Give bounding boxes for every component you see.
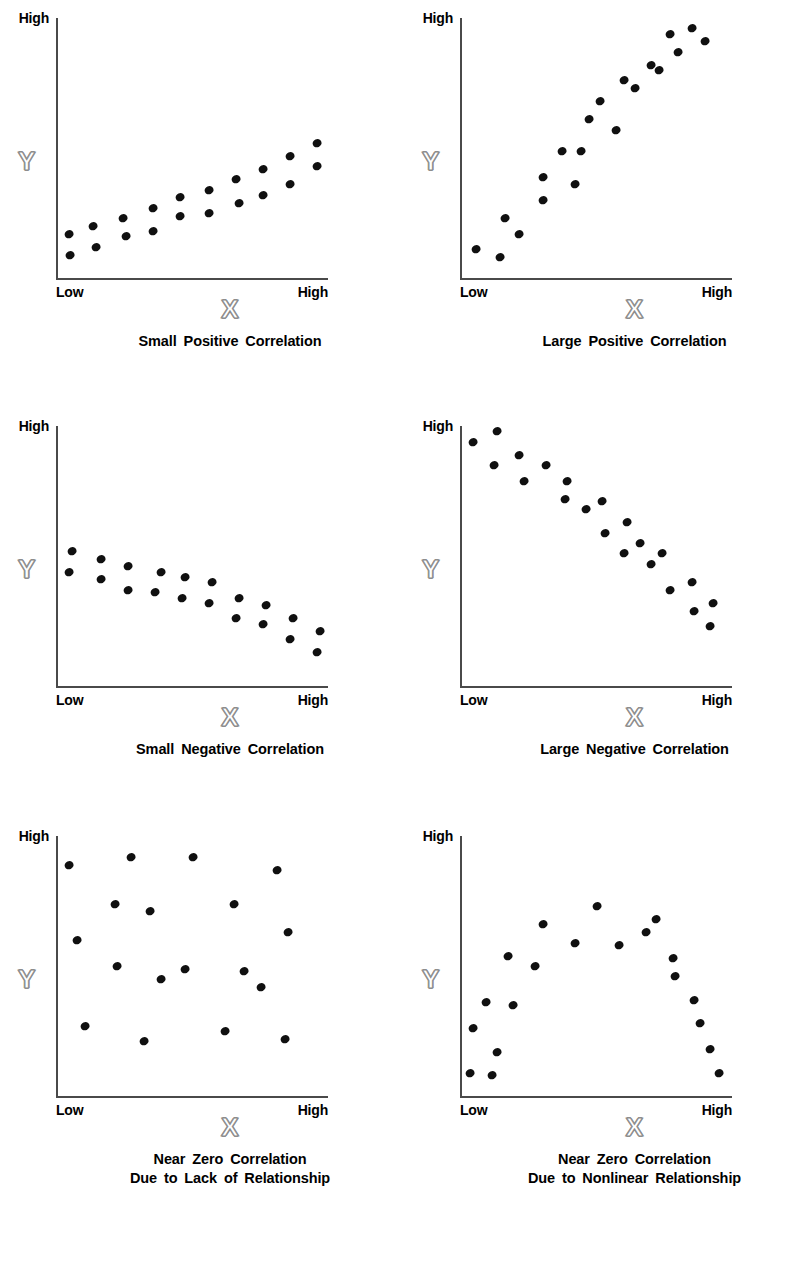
panel-caption-line: Small Positive Correlation — [138, 332, 321, 351]
data-point — [314, 626, 325, 637]
data-point — [96, 553, 107, 564]
data-point — [705, 621, 716, 632]
data-point — [629, 83, 640, 94]
scatter-panel-small-positive-correlation: HighLowHighYXSmall Positive Correlation — [0, 0, 404, 408]
x-axis-title-wrap: X — [404, 296, 809, 322]
data-point — [610, 125, 621, 136]
data-point — [204, 208, 215, 219]
data-point — [689, 995, 700, 1006]
data-point — [177, 592, 188, 603]
data-point — [258, 618, 269, 629]
panel-caption-line: Near Zero Correlation — [528, 1150, 741, 1169]
data-point — [570, 179, 581, 190]
data-point — [713, 1067, 724, 1078]
panel-caption-wrap: Small Negative Correlation — [0, 740, 404, 759]
data-point — [228, 898, 239, 909]
panel-caption-line: Small Negative Correlation — [136, 740, 324, 759]
data-point — [233, 197, 244, 208]
panel-caption-wrap: Large Negative Correlation — [404, 740, 809, 759]
data-point — [640, 927, 651, 938]
data-point — [150, 587, 161, 598]
data-point — [144, 906, 155, 917]
data-point — [689, 605, 700, 616]
x-axis-title-wrap: X — [404, 704, 809, 730]
data-point — [694, 1018, 705, 1029]
x-axis-title: X — [626, 1114, 643, 1140]
x-axis-line — [460, 686, 732, 688]
data-point — [513, 449, 524, 460]
data-point — [686, 23, 697, 34]
y-axis-high-label: High — [423, 828, 453, 844]
panel-caption: Small Negative Correlation — [136, 740, 324, 759]
data-point — [707, 598, 718, 609]
data-point — [599, 527, 610, 538]
correlation-figure-grid: HighLowHighYXSmall Positive CorrelationH… — [0, 0, 809, 1283]
data-point — [597, 496, 608, 507]
data-point — [231, 613, 242, 624]
data-point — [139, 1036, 150, 1047]
data-point — [71, 935, 82, 946]
x-axis-title: X — [626, 296, 643, 322]
data-point — [63, 229, 74, 240]
data-point — [513, 229, 524, 240]
data-point — [594, 96, 605, 107]
panel-caption-wrap: Near Zero CorrelationDue to Nonlinear Re… — [404, 1150, 809, 1188]
plot-area: HighLowHigh — [56, 18, 328, 280]
data-point — [635, 538, 646, 549]
panel-caption: Near Zero CorrelationDue to Lack of Rela… — [130, 1150, 330, 1188]
data-point — [285, 634, 296, 645]
data-point — [470, 244, 481, 255]
data-point — [518, 475, 529, 486]
data-point — [664, 585, 675, 596]
data-point — [90, 242, 101, 253]
data-point — [187, 852, 198, 863]
panel-caption-line: Large Positive Correlation — [543, 332, 727, 351]
data-point — [494, 252, 505, 263]
data-point — [271, 865, 282, 876]
data-point — [562, 475, 573, 486]
data-point — [537, 195, 548, 206]
panel-caption: Small Positive Correlation — [138, 332, 321, 351]
data-point — [123, 585, 134, 596]
data-point — [231, 174, 242, 185]
data-point — [653, 65, 664, 76]
data-point — [220, 1026, 231, 1037]
plot-area: HighLowHigh — [460, 18, 732, 280]
data-point — [540, 460, 551, 471]
data-point — [486, 1070, 497, 1081]
scatter-panel-near-zero-lack-of-relationship: HighLowHighYXNear Zero CorrelationDue to… — [0, 808, 404, 1283]
data-point — [705, 1044, 716, 1055]
scatter-points — [462, 836, 732, 1096]
plot-area: HighLowHigh — [460, 426, 732, 688]
panel-caption-wrap: Near Zero CorrelationDue to Lack of Rela… — [0, 1150, 404, 1188]
scatter-points — [462, 426, 732, 686]
data-point — [87, 221, 98, 232]
y-axis-title: Y — [18, 966, 35, 992]
data-point — [656, 548, 667, 559]
data-point — [686, 577, 697, 588]
data-point — [699, 36, 710, 47]
data-point — [312, 647, 323, 658]
data-point — [491, 426, 502, 437]
scatter-points — [58, 836, 328, 1096]
scatter-panel-small-negative-correlation: HighLowHighYXSmall Negative Correlation — [0, 408, 404, 808]
data-point — [613, 940, 624, 951]
panel-caption-line: Due to Nonlinear Relationship — [528, 1169, 741, 1188]
x-axis-line — [56, 278, 328, 280]
panel-caption-line: Large Negative Correlation — [540, 740, 729, 759]
data-point — [529, 961, 540, 972]
panel-caption: Large Positive Correlation — [543, 332, 727, 351]
data-point — [282, 927, 293, 938]
y-axis-title: Y — [422, 556, 439, 582]
y-axis-high-label: High — [19, 10, 49, 26]
data-point — [285, 179, 296, 190]
data-point — [258, 164, 269, 175]
data-point — [204, 598, 215, 609]
y-axis-title: Y — [422, 148, 439, 174]
data-point — [467, 1023, 478, 1034]
data-point — [63, 859, 74, 870]
data-point — [312, 138, 323, 149]
scatter-points — [462, 18, 732, 278]
scatter-panel-near-zero-nonlinear-relationship: HighLowHighYXNear Zero CorrelationDue to… — [404, 808, 809, 1283]
x-axis-title: X — [221, 296, 238, 322]
